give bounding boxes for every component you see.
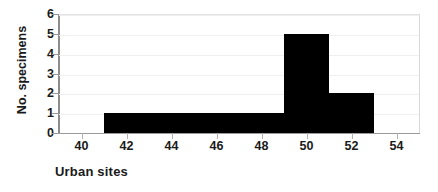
x-axis-tick-label: 48	[242, 140, 282, 153]
x-axis-line	[59, 133, 420, 134]
y-axis-tick-mark	[52, 54, 59, 55]
x-axis-tick-label: 54	[377, 140, 417, 153]
x-axis-title: Urban sites	[55, 164, 128, 179]
x-axis-tick-label: 52	[332, 140, 372, 153]
y-axis-tick-mark	[52, 93, 59, 94]
gridline-horizontal	[59, 75, 419, 76]
y-axis-tick-mark	[52, 74, 59, 75]
gridline-horizontal	[59, 55, 419, 56]
x-axis-tick-label: 40	[62, 140, 102, 153]
gridline-horizontal	[59, 35, 419, 36]
y-axis-tick-label: 6	[32, 8, 54, 21]
x-axis-tick-label: 46	[197, 140, 237, 153]
y-axis-tick-labels: 0123456	[26, 0, 54, 192]
y-axis-tick-label: 5	[32, 28, 54, 41]
y-axis-tick-mark	[52, 133, 59, 134]
x-axis-tick-label: 44	[152, 140, 192, 153]
y-axis-tick-mark	[52, 113, 59, 114]
chart-figure: No. specimens 0123456 Urban sites 404244…	[0, 0, 438, 192]
y-axis-tick-mark	[52, 14, 59, 15]
y-axis-tick-label: 2	[32, 87, 54, 100]
histogram-bar	[329, 93, 374, 133]
gridline-horizontal	[59, 15, 419, 16]
y-axis-tick-label: 3	[32, 68, 54, 81]
y-axis-tick-label: 0	[32, 127, 54, 140]
y-axis-tick-label: 4	[32, 48, 54, 61]
y-axis-tick-label: 1	[32, 107, 54, 120]
x-axis-tick-label: 50	[287, 140, 327, 153]
histogram-bar	[104, 113, 284, 133]
x-axis-tick-label: 42	[107, 140, 147, 153]
histogram-bar	[284, 34, 329, 133]
y-axis-tick-mark	[52, 34, 59, 35]
